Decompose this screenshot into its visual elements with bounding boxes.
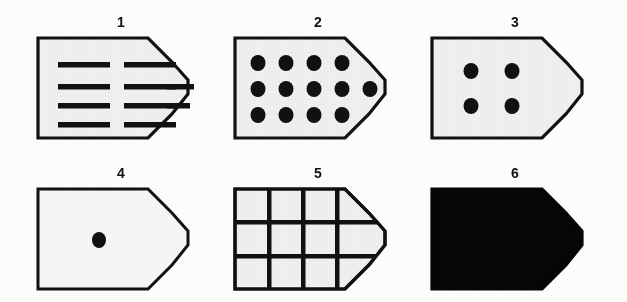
panel-6-label: 6 <box>430 165 600 181</box>
panel-1-shape <box>36 36 196 140</box>
dot-mark <box>505 63 520 79</box>
dash-mark <box>58 84 110 90</box>
dot-mark <box>279 107 294 123</box>
panel-5-shape <box>233 187 393 291</box>
panel-3-shape <box>430 36 590 140</box>
dot-mark <box>363 81 378 97</box>
panel-5-label: 5 <box>233 165 403 181</box>
dot-mark <box>92 232 106 248</box>
panel-6: 6 <box>430 165 600 295</box>
dot-mark <box>505 98 520 114</box>
dot-mark <box>251 107 266 123</box>
grid-line-horizontal <box>233 220 393 225</box>
pentagon-shape-4 <box>36 187 196 291</box>
dot-mark <box>307 55 322 71</box>
dash-mark <box>167 103 190 109</box>
dot-mark <box>279 55 294 71</box>
panel-1-label: 1 <box>36 14 206 30</box>
dash-mark <box>167 84 194 90</box>
dash-mark <box>124 62 176 68</box>
panel-2-label: 2 <box>233 14 403 30</box>
figure-root: 1 2 <box>0 0 627 302</box>
pentagon-outline <box>38 189 188 289</box>
panel-3: 3 <box>430 14 600 144</box>
pentagon-shape-6 <box>430 187 590 291</box>
dash-mark <box>58 103 110 109</box>
dot-mark <box>335 81 350 97</box>
dot-mark <box>335 55 350 71</box>
grid-line-vertical <box>301 187 306 291</box>
dash-mark <box>124 122 176 128</box>
pentagon-outline <box>235 189 385 289</box>
panel-1: 1 <box>36 14 206 144</box>
grid-line-vertical <box>335 187 340 291</box>
panel-4: 4 <box>36 165 206 295</box>
pentagon-shape-1 <box>36 36 196 140</box>
dot-mark <box>464 63 479 79</box>
pentagon-outline <box>432 38 582 138</box>
panel-4-label: 4 <box>36 165 206 181</box>
panel-2-shape <box>233 36 393 140</box>
dot-mark <box>307 81 322 97</box>
panel-4-shape <box>36 187 196 291</box>
panel-6-shape <box>430 187 590 291</box>
pentagon-shape-2 <box>233 36 393 140</box>
panel-2: 2 <box>233 14 403 144</box>
dot-mark <box>251 55 266 71</box>
grid-line-vertical <box>267 187 272 291</box>
dot-mark <box>251 81 266 97</box>
panel-5: 5 <box>233 165 403 295</box>
panel-3-label: 3 <box>430 14 600 30</box>
dash-mark <box>58 62 110 68</box>
dot-mark <box>279 81 294 97</box>
pentagon-shape-3 <box>430 36 590 140</box>
dot-mark <box>464 98 479 114</box>
pentagon-shape-5 <box>233 187 393 291</box>
dash-mark <box>58 122 110 128</box>
dot-mark <box>335 107 350 123</box>
grid-line-horizontal <box>233 254 393 259</box>
pentagon-solid-fill <box>432 189 582 289</box>
dot-mark <box>307 107 322 123</box>
